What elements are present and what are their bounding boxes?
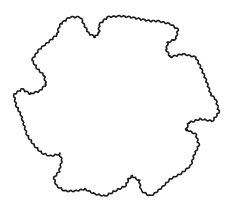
background <box>0 0 231 212</box>
fractal-figure <box>0 0 231 212</box>
